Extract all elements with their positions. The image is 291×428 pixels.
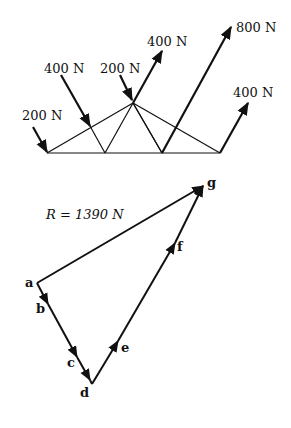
load-label-2: 400 N [44, 61, 84, 76]
truss-loads [33, 27, 248, 153]
point-b: b [36, 301, 45, 316]
load-label-1: 200 N [22, 108, 62, 123]
point-a: a [25, 275, 34, 290]
load-label-3: 200 N [100, 61, 140, 76]
load-arrow-4 [133, 51, 162, 103]
truss [47, 103, 220, 153]
point-e: e [121, 340, 129, 355]
load-arrow-6 [220, 103, 248, 153]
load-label-4: 400 N [147, 34, 187, 49]
point-f: f [177, 239, 184, 254]
point-d: d [80, 385, 89, 400]
load-label-5: 800 N [236, 20, 276, 35]
load-arrow-3 [120, 75, 132, 100]
point-c: c [67, 355, 75, 370]
load-arrow-2 [61, 75, 90, 126]
resultant-label: R = 1390 N [45, 207, 124, 222]
point-g: g [207, 175, 216, 190]
load-label-6: 400 N [233, 85, 273, 100]
force-diagram: 200 N 400 N 200 N 400 N 800 N 400 N R = … [0, 0, 291, 428]
load-arrow-1 [33, 127, 47, 152]
